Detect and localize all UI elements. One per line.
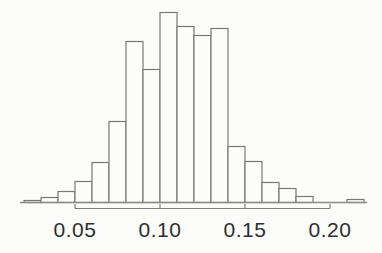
histogram-bar bbox=[194, 36, 211, 203]
histogram-bar bbox=[228, 147, 245, 203]
x-axis-tick-labels: 0.05 0.10 0.15 0.20 bbox=[54, 218, 352, 241]
x-tick-label-005: 0.05 bbox=[54, 218, 97, 241]
histogram-canvas: 0.05 0.10 0.15 0.20 bbox=[0, 0, 382, 253]
screenshot-root: { "chart_data": { "type": "bar", "subtyp… bbox=[0, 0, 382, 253]
histogram-bar bbox=[92, 163, 109, 203]
histogram-bar bbox=[41, 198, 58, 203]
histogram-bar bbox=[109, 122, 126, 203]
histogram-bar bbox=[177, 27, 194, 203]
x-tick-label-015: 0.15 bbox=[224, 218, 267, 241]
histogram-bar bbox=[75, 182, 92, 203]
histogram-bar bbox=[211, 29, 228, 203]
histogram-bar bbox=[245, 162, 262, 203]
histogram-bar bbox=[279, 189, 296, 203]
histogram-bar bbox=[160, 13, 177, 203]
bars-group bbox=[24, 13, 364, 203]
histogram-bar bbox=[126, 42, 143, 203]
histogram-bar bbox=[58, 192, 75, 203]
x-axis-ticks bbox=[75, 204, 330, 209]
histogram-bar bbox=[143, 70, 160, 203]
histogram-bar bbox=[296, 197, 313, 203]
x-tick-label-020: 0.20 bbox=[309, 218, 352, 241]
histogram-bar bbox=[262, 183, 279, 203]
x-tick-label-010: 0.10 bbox=[139, 218, 182, 241]
histogram-figure: 0.05 0.10 0.15 0.20 bbox=[0, 0, 382, 253]
